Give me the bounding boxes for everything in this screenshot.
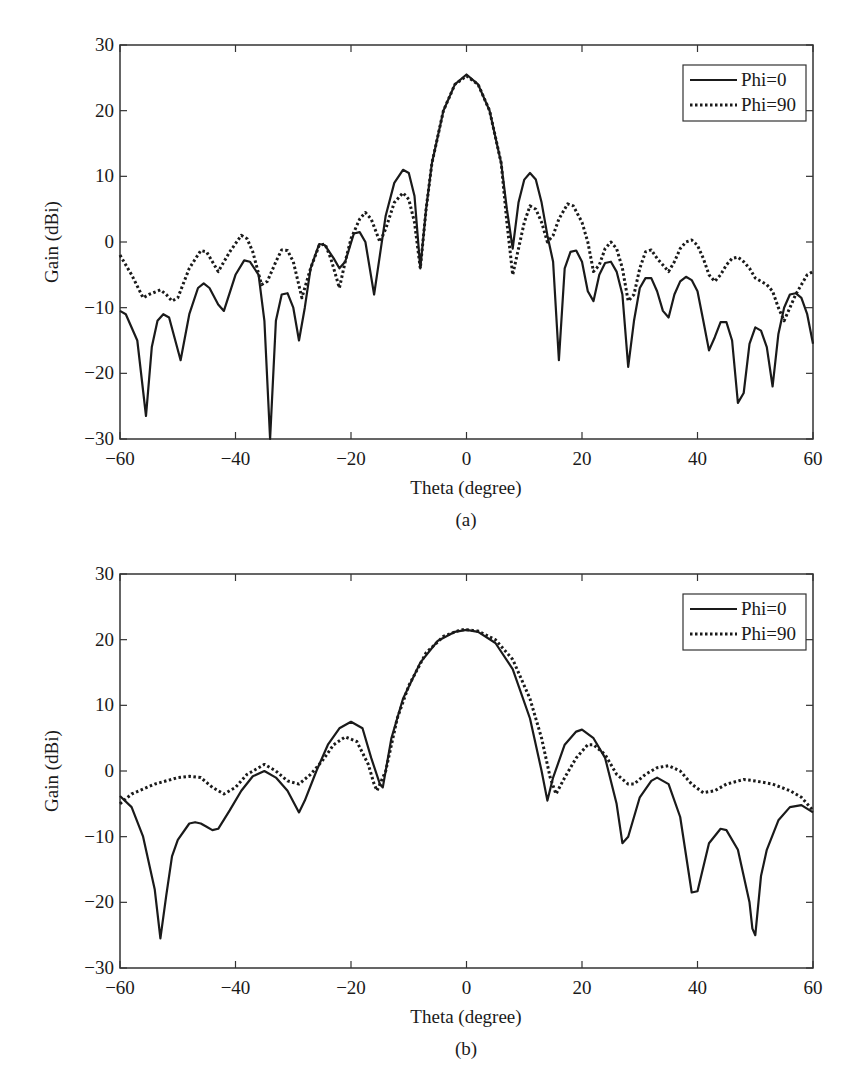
x-tick-label: −20 <box>336 448 366 469</box>
x-axis-label: Theta (degree) <box>410 477 521 499</box>
x-tick-label: −60 <box>105 977 135 998</box>
y-tick-label: −20 <box>84 891 114 912</box>
y-tick-label: 10 <box>95 694 114 715</box>
data-series <box>120 75 813 440</box>
y-axis-label: Gain (dBi) <box>41 730 63 812</box>
x-axis-label: Theta (degree) <box>410 1006 521 1028</box>
panel-caption: (b) <box>455 1038 477 1059</box>
legend-label-phi90: Phi=90 <box>741 623 796 644</box>
x-tick-label: 20 <box>573 448 592 469</box>
plot-area: −60−40−200204060−30−20−100102030 Phi=0 P… <box>84 563 822 998</box>
y-tick-label: −30 <box>84 957 114 978</box>
y-tick-label: 10 <box>95 165 114 186</box>
legend: Phi=0 Phi=90 <box>683 65 806 121</box>
figure-panel-b: −60−40−200204060−30−20−100102030 Phi=0 P… <box>0 529 867 1059</box>
y-tick-label: 0 <box>105 760 115 781</box>
x-tick-label: 0 <box>462 977 472 998</box>
chart-a-svg: −60−40−200204060−30−20−100102030 Phi=0 P… <box>0 0 867 530</box>
x-tick-label: 60 <box>804 448 823 469</box>
legend-label-phi90: Phi=90 <box>741 94 796 115</box>
data-series <box>120 630 813 939</box>
y-tick-label: 30 <box>95 563 114 584</box>
x-tick-label: 60 <box>804 977 823 998</box>
x-tick-label: −40 <box>221 977 251 998</box>
y-tick-label: −10 <box>84 297 114 318</box>
x-tick-label: −40 <box>221 448 251 469</box>
plot-area: −60−40−200204060−30−20−100102030 Phi=0 P… <box>84 34 822 469</box>
y-tick-label: −30 <box>84 428 114 449</box>
x-tick-label: 20 <box>573 977 592 998</box>
y-axis-label: Gain (dBi) <box>41 201 63 283</box>
x-tick-label: −60 <box>105 448 135 469</box>
x-tick-label: 40 <box>688 448 707 469</box>
y-tick-label: 20 <box>95 629 114 650</box>
y-tick-label: 30 <box>95 34 114 55</box>
legend-label-phi0: Phi=0 <box>741 69 787 90</box>
series-line-phi0 <box>120 75 813 440</box>
series-line-phi90 <box>120 630 813 811</box>
legend: Phi=0 Phi=90 <box>683 594 806 650</box>
series-line-phi0 <box>120 630 813 939</box>
chart-b-svg: −60−40−200204060−30−20−100102030 Phi=0 P… <box>0 529 867 1059</box>
panel-caption: (a) <box>455 509 476 530</box>
x-tick-label: 0 <box>462 448 472 469</box>
figure-panel-a: −60−40−200204060−30−20−100102030 Phi=0 P… <box>0 0 867 530</box>
x-tick-label: 40 <box>688 977 707 998</box>
y-tick-label: 0 <box>105 231 115 252</box>
x-tick-label: −20 <box>336 977 366 998</box>
legend-label-phi0: Phi=0 <box>741 598 787 619</box>
y-tick-label: −20 <box>84 362 114 383</box>
y-tick-label: −10 <box>84 826 114 847</box>
y-tick-label: 20 <box>95 100 114 121</box>
